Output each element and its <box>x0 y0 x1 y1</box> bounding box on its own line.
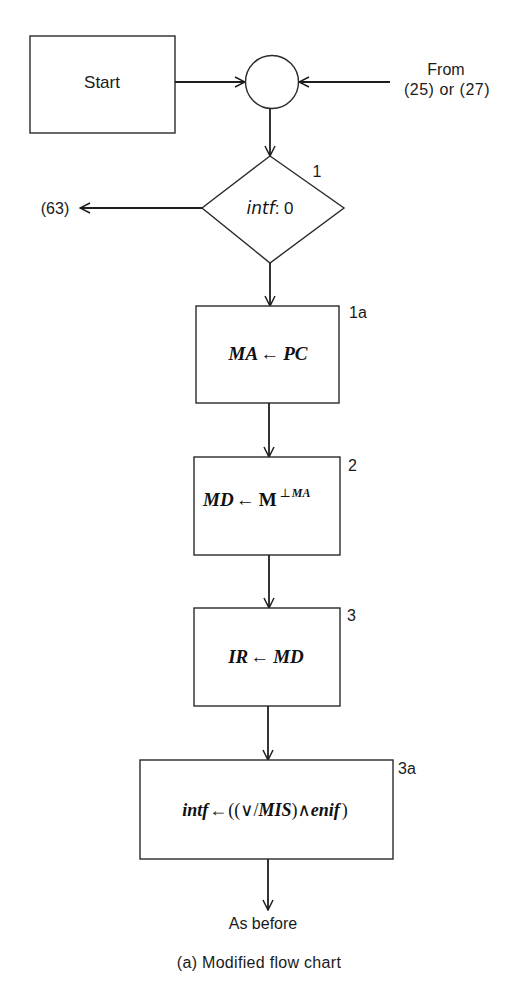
exit-label-as-before: As before <box>229 915 298 932</box>
start-label: Start <box>84 73 120 92</box>
step-box-2: MD←M⊥MA 2 <box>194 457 357 555</box>
step-box-3: IR←MD 3 <box>194 607 356 706</box>
decision-intf: intf: 0 1 <box>202 156 344 263</box>
step-box-3a: intf←((∨/MIS)∧enif) 3a <box>140 760 416 859</box>
step-number-3a: 3a <box>398 760 416 777</box>
step-1a-expression: MA←PC <box>228 343 308 364</box>
start-box: Start <box>30 36 175 133</box>
connector-circle <box>246 56 299 109</box>
step-number-2: 2 <box>348 457 357 474</box>
from-label: From <box>427 61 464 78</box>
step-3a-expression: intf←((∨/MIS)∧enif) <box>182 800 347 821</box>
figure-caption: (a) Modified flow chart <box>177 954 342 971</box>
step-number-1a: 1a <box>349 304 367 321</box>
flow-chart: Start From (25) or (27) intf: 0 1 (63) M… <box>0 0 526 987</box>
step-box-1a: MA←PC 1a <box>196 304 367 403</box>
decision-condition: intf: 0 <box>246 198 293 218</box>
step-number-1: 1 <box>313 163 322 180</box>
exit-label-63: (63) <box>41 200 69 217</box>
step-number-3: 3 <box>347 607 356 624</box>
step-3-expression: IR←MD <box>227 646 304 667</box>
from-source-label: (25) or (27) <box>404 81 490 98</box>
